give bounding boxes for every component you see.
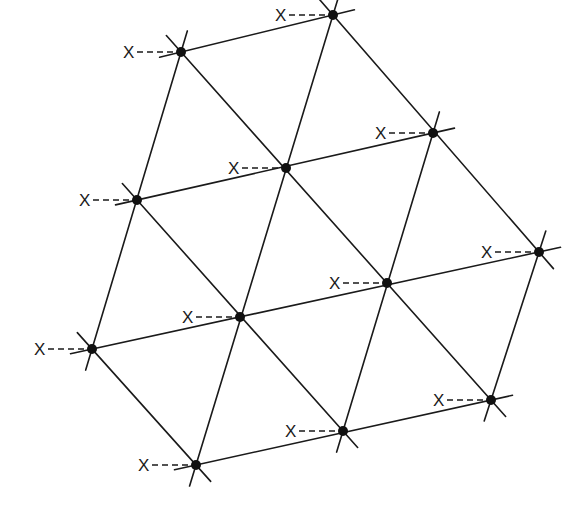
lattice-line-steep-4	[484, 231, 546, 421]
node-label-h: X	[329, 274, 340, 293]
node-label-c: X	[79, 191, 90, 210]
node-label-f: X	[34, 340, 45, 359]
lattice-node-i	[534, 247, 544, 257]
lattice-line-steep-2	[190, 0, 340, 486]
lattice-node-l	[486, 395, 496, 405]
lattice-node-f	[87, 344, 97, 354]
node-labels: XXXXXXXXXXXX	[34, 6, 492, 475]
node-label-i: X	[481, 243, 492, 262]
node-label-a: X	[123, 43, 134, 62]
lattice-line-rows-3	[71, 247, 561, 353]
lattice-node-j	[191, 460, 201, 470]
lattice-line-diagonal-1	[166, 36, 505, 417]
lattice-diagram: XXXXXXXXXXXX	[0, 0, 575, 525]
lattice-node-d	[281, 163, 291, 173]
lattice-node-b	[328, 10, 338, 20]
lattice-node-k	[338, 426, 348, 436]
label-leaders	[48, 15, 535, 465]
node-label-e: X	[375, 124, 386, 143]
node-label-k: X	[285, 422, 296, 441]
node-label-g: X	[182, 308, 193, 327]
lattice-svg: XXXXXXXXXXXX	[0, 0, 575, 525]
node-label-j: X	[138, 456, 149, 475]
lattice-line-rows-1	[160, 10, 355, 57]
lattice-node-a	[176, 47, 186, 57]
lattice-node-e	[428, 128, 438, 138]
node-label-l: X	[433, 391, 444, 410]
lattice-node-c	[132, 195, 142, 205]
lattice-node-g	[235, 312, 245, 322]
node-label-b: X	[275, 6, 286, 25]
node-label-d: X	[228, 159, 239, 178]
lattice-node-h	[382, 278, 392, 288]
